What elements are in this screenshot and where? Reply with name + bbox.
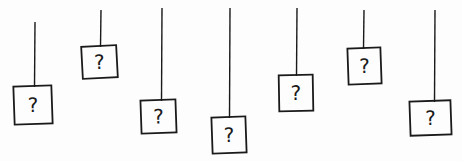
- hanging-box-5: ?: [279, 8, 314, 111]
- hanging-box-4: ?: [211, 8, 246, 154]
- question-mark-icon: ?: [223, 123, 234, 147]
- hanging-question-boxes-figure: ???????: [0, 0, 462, 161]
- hanging-box-3: ?: [140, 8, 176, 134]
- question-mark-icon: ?: [290, 81, 301, 105]
- string-line: [435, 10, 436, 102]
- hanging-box-6: ?: [347, 10, 381, 85]
- string-line: [230, 8, 231, 118]
- string-line: [162, 8, 163, 101]
- question-mark-icon: ?: [27, 93, 38, 117]
- string-line: [35, 22, 36, 87]
- question-mark-icon: ?: [153, 104, 164, 128]
- string-line: [297, 8, 298, 76]
- question-mark-icon: ?: [425, 106, 436, 130]
- hanging-box-1: ?: [13, 22, 52, 125]
- hanging-box-2: ?: [81, 10, 118, 79]
- string-line: [364, 10, 365, 49]
- question-mark-icon: ?: [94, 50, 106, 75]
- figure-svg: ???????: [0, 0, 462, 161]
- question-mark-icon: ?: [359, 54, 370, 78]
- string-line: [101, 10, 102, 47]
- hanging-box-7: ?: [409, 10, 451, 136]
